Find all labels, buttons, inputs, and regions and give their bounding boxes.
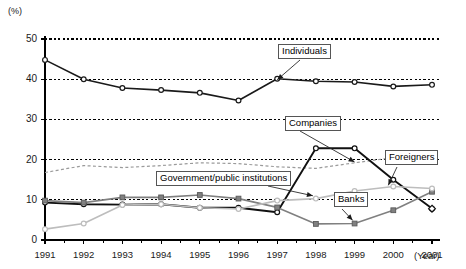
callout-individuals: Individuals — [278, 44, 331, 59]
x-axis-tick-2000: 2000 — [373, 249, 413, 260]
x-axis-tick-1999: 1999 — [335, 249, 375, 260]
callout-foreigners: Foreigners — [385, 150, 438, 165]
x-axis-tick-1993: 1993 — [102, 249, 142, 260]
x-axis-tick-1996: 1996 — [219, 249, 259, 260]
chart-root: (%) 01020304050 199119921993199419951996… — [0, 0, 466, 269]
chart-plot-area — [0, 0, 466, 269]
y-axis-tick-30: 30 — [15, 113, 37, 124]
callout-banks: Banks — [334, 192, 368, 207]
x-axis-tick-1994: 1994 — [141, 249, 181, 260]
y-axis-tick-10: 10 — [15, 194, 37, 205]
y-axis-tick-0: 0 — [15, 234, 37, 245]
x-axis-tick-1991: 1991 — [25, 249, 65, 260]
callout-companies: Companies — [285, 116, 341, 131]
y-axis-tick-50: 50 — [15, 33, 37, 44]
x-axis-tick-1997: 1997 — [257, 249, 297, 260]
x-axis-tick-1992: 1992 — [64, 249, 104, 260]
y-axis-tick-20: 20 — [15, 154, 37, 165]
x-axis-tick-1995: 1995 — [180, 249, 220, 260]
x-axis-year-label: (Year) — [414, 250, 440, 261]
y-axis-tick-40: 40 — [15, 73, 37, 84]
x-axis-tick-1998: 1998 — [296, 249, 336, 260]
callout-government-public-institutions: Government/public institutions — [156, 171, 291, 186]
